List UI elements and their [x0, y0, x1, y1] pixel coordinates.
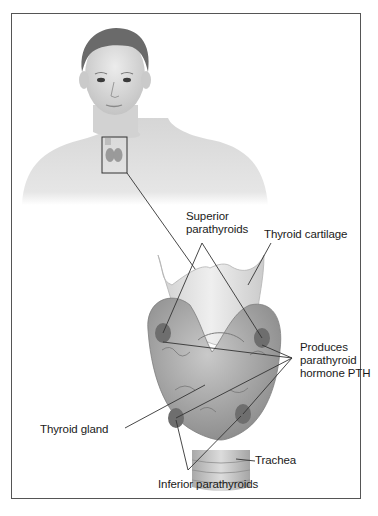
- label-thyroid-gland: Thyroid gland: [40, 423, 108, 436]
- anatomy-illustration: [0, 0, 378, 516]
- label-produces-pth: Produces parathyroid hormone PTH: [300, 341, 370, 380]
- label-inferior-parathyroids: Inferior parathyroids: [158, 478, 258, 491]
- label-thyroid-cartilage: Thyroid cartilage: [264, 228, 347, 241]
- label-trachea: Trachea: [255, 454, 296, 467]
- person-figure: [22, 28, 268, 205]
- label-superior-parathyroids: Superior parathyroids: [186, 210, 248, 236]
